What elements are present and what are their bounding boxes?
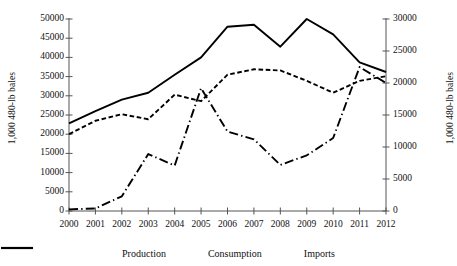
y-tick-label-left: 25000 xyxy=(12,109,64,119)
y-tick-label-left: 0 xyxy=(12,205,64,215)
y-tick-label-right: 20000 xyxy=(393,77,439,87)
y-tick-label-left: 50000 xyxy=(12,13,64,23)
y-tick-label-right: 25000 xyxy=(393,45,439,55)
y-tick-label-left: 35000 xyxy=(12,71,64,81)
y-tick-label-left: 20000 xyxy=(12,128,64,138)
axes xyxy=(66,18,390,215)
y-tick-label-left: 5000 xyxy=(12,186,64,196)
y-tick-label-right: 30000 xyxy=(393,13,439,23)
y-tick-label-right: 0 xyxy=(393,205,439,215)
y-tick-label-right: 10000 xyxy=(393,141,439,151)
y-tick-label-left: 40000 xyxy=(12,51,64,61)
series-lines xyxy=(69,19,386,209)
legend-swatch-dashdot-icon xyxy=(0,243,32,253)
legend-item-consumption[interactable]: Consumption xyxy=(208,248,262,259)
x-tick-label: 2012 xyxy=(370,219,402,229)
series-line-consumption xyxy=(69,19,386,123)
legend-label-production: Production xyxy=(122,248,166,259)
chart-figure: 1,000 480-lb bales 1,000 480-lb bales 05… xyxy=(0,0,457,266)
y-tick-label-left: 10000 xyxy=(12,167,64,177)
y-tick-label-left: 15000 xyxy=(12,147,64,157)
y-tick-label-left: 30000 xyxy=(12,90,64,100)
legend-item-imports[interactable]: Imports xyxy=(304,248,335,259)
chart-legend: Production Consumption Imports xyxy=(0,243,457,263)
series-line-imports xyxy=(69,67,386,209)
legend-label-consumption: Consumption xyxy=(208,248,262,259)
y-tick-label-left: 45000 xyxy=(12,32,64,42)
legend-item-production[interactable]: Production xyxy=(122,248,166,259)
y-tick-label-right: 5000 xyxy=(393,173,439,183)
legend-label-imports: Imports xyxy=(304,248,335,259)
y-tick-label-right: 15000 xyxy=(393,109,439,119)
